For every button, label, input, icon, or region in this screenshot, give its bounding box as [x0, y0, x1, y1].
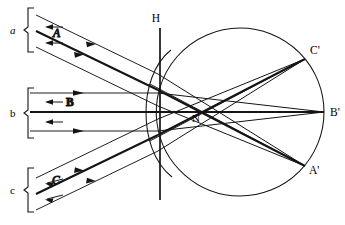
refracted-a-3 — [158, 106, 305, 166]
ray-c-lower-arrowhead — [86, 178, 96, 184]
ray-b-label: B — [66, 96, 74, 108]
ray-c-upper — [36, 119, 158, 178]
bundle-c-label: c — [10, 184, 15, 196]
bundle-a-incoming-rays: A — [36, 15, 158, 106]
image-point-a-label: A' — [309, 164, 319, 176]
refracted-bundle-a-to-A-prime — [158, 74, 305, 166]
nodal-ray-a — [150, 84, 305, 166]
dir-arrow-b2-head — [45, 119, 53, 124]
refracted-bundle-c-to-C-prime — [158, 59, 305, 151]
nodal-point-label: N — [192, 112, 200, 124]
ray-a-upper-arrowhead — [86, 42, 96, 48]
image-point-b-label: B' — [330, 106, 340, 118]
dir-arrow-c2-head — [45, 198, 54, 203]
ray-a-label: A — [52, 27, 61, 39]
dir-arrow-b1-head — [45, 99, 53, 104]
ray-c-label: C — [52, 174, 60, 186]
refracted-c-1 — [158, 59, 305, 151]
dir-arrow-a1-head — [45, 24, 53, 29]
ray-b-upper-arrowhead — [73, 90, 84, 95]
bundle-b-label: b — [10, 107, 16, 119]
image-point-labels: N C' B' A' — [192, 44, 340, 176]
refracted-a-1 — [158, 74, 305, 166]
nodal-ray-c — [150, 59, 305, 141]
bundle-brackets: a b c — [10, 8, 34, 212]
bracket-a — [24, 8, 34, 52]
principal-plane-label: H — [152, 12, 160, 24]
bundle-c-incoming-rays: C — [36, 119, 158, 210]
image-point-c-label: C' — [310, 44, 320, 56]
ray-a-chief — [36, 31, 158, 90]
bracket-b — [24, 88, 34, 138]
ray-diagram-canvas: H A — [0, 0, 345, 225]
optics-diagram: H A — [0, 0, 345, 225]
bracket-c — [24, 168, 34, 212]
refracted-c-3 — [158, 59, 305, 119]
bundle-a-label: a — [10, 24, 16, 36]
dir-arrow-a2-head — [45, 40, 53, 45]
ray-a-upper — [36, 15, 158, 74]
ray-b-lower-arrowhead — [73, 128, 84, 133]
ray-a-lower — [36, 47, 158, 106]
